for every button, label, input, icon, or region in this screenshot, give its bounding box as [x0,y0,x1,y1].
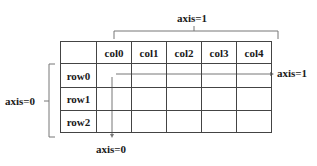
cell [202,88,237,111]
cell [237,88,272,111]
column-header: col1 [132,42,167,64]
cell [97,111,132,133]
cell [167,111,202,133]
corner-cell [61,42,97,64]
table-row: row2 [61,111,272,133]
column-header: col4 [237,42,272,64]
table-row: row0 [61,64,272,88]
arrow-head-down-icon [110,134,114,138]
column-header: col2 [167,42,202,64]
left-bracket [49,64,55,137]
horizontal-arrow-label: axis=1 [277,67,307,79]
cell [237,111,272,133]
cell [132,111,167,133]
cell [167,88,202,111]
top-axis-label: axis=1 [177,12,207,24]
row-label: row1 [61,88,97,111]
cell [202,111,237,133]
row-label: row0 [61,64,97,88]
header-row: col0 col1 col2 col3 col4 [61,42,272,64]
top-bracket [114,31,278,39]
cell [237,64,272,88]
cell [132,88,167,111]
dataframe-table: col0 col1 col2 col3 col4 row0 row1 row2 [60,41,272,133]
row-label: row2 [61,111,97,133]
cell [202,64,237,88]
column-header: col0 [97,42,132,64]
cell [97,64,132,88]
table-row: row1 [61,88,272,111]
left-axis-label: axis=0 [5,95,35,107]
cell [132,64,167,88]
column-header: col3 [202,42,237,64]
cell [167,64,202,88]
vertical-arrow-label: axis=0 [96,143,126,155]
cell [97,88,132,111]
